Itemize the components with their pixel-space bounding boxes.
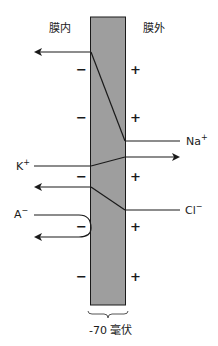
inside-negative-sign: −	[76, 62, 87, 77]
potential-label: -70 毫伏	[89, 323, 132, 337]
outside-positive-sign: +	[130, 110, 141, 125]
inside-negative-sign: −	[76, 169, 87, 184]
inside-label: 膜内	[49, 21, 71, 35]
outside-positive-sign: +	[130, 269, 141, 284]
k-ion-label: K+	[16, 158, 30, 173]
inside-negative-sign: −	[76, 219, 87, 234]
outside-positive-sign: +	[130, 62, 141, 77]
outside-positive-sign: +	[130, 219, 141, 234]
membrane-width-brace	[88, 311, 128, 318]
outside-label: 膜外	[143, 22, 165, 35]
outside-positive-sign: +	[130, 169, 141, 184]
a-ion-label: A−	[14, 206, 28, 221]
inside-negative-sign: −	[76, 269, 87, 284]
na-ion-label: Na+	[186, 133, 208, 148]
inside-negative-sign: −	[76, 110, 87, 125]
cl-ion-label: Cl−	[185, 202, 202, 217]
membrane-potential-diagram: 膜内 膜外 Na+ K+ Cl− A− − − − − − + + + + + …	[0, 0, 218, 346]
